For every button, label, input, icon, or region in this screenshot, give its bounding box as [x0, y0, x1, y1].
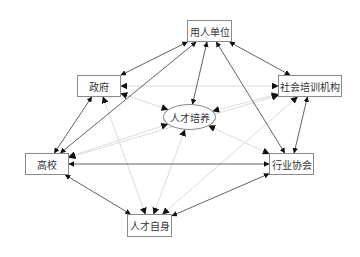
node-talent-self: 人才自身	[127, 214, 172, 237]
edge-employer-talent_cultivation	[193, 42, 207, 104]
node-label: 用人单位	[190, 24, 230, 39]
diagram-canvas: 用人单位 政府 社会培训机构 人才培养 高校 行业协会 人才自身	[0, 0, 360, 257]
node-label: 高校	[37, 157, 57, 172]
edge-government-university	[54, 97, 91, 153]
node-industry-association: 行业协会	[269, 153, 314, 175]
edge-training-talent_cultivation	[213, 94, 278, 111]
edge-employer-university	[60, 42, 196, 153]
node-label: 社会培训机构	[280, 79, 340, 94]
node-government: 政府	[77, 75, 121, 97]
edge-talent_cultivation-self	[154, 130, 185, 214]
node-label: 人才自身	[130, 218, 170, 233]
edge-talent_cultivation-university	[69, 124, 168, 156]
node-label: 人才培养	[170, 110, 210, 125]
edge-employer-government	[121, 42, 187, 75]
edge-government-self	[103, 97, 145, 214]
node-social-training-institution: 社会培训机构	[278, 75, 342, 97]
node-label: 行业协会	[272, 157, 312, 172]
edge-employer-industry	[216, 42, 284, 153]
edge-employer-training	[230, 42, 290, 75]
node-label: 政府	[89, 79, 109, 94]
edge-government-talent_cultivation	[121, 94, 168, 110]
edge-university-self	[65, 175, 130, 214]
edge-industry-self	[172, 174, 269, 216]
node-university: 高校	[25, 153, 69, 175]
node-employer: 用人单位	[187, 20, 232, 42]
node-talent-cultivation: 人才培养	[163, 104, 216, 130]
edge-training-industry	[294, 97, 307, 153]
